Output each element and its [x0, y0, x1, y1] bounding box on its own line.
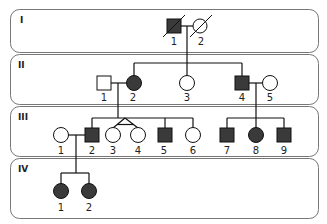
- individual-iii-1: 1: [54, 128, 69, 157]
- individual-iv-2: 2: [82, 184, 97, 214]
- individual-number: 1: [58, 202, 64, 213]
- individual-number: 6: [190, 145, 196, 156]
- individual-iii-9: 9: [277, 128, 291, 156]
- generation-label-ii: II: [18, 60, 25, 70]
- individual-number: 7: [224, 145, 230, 156]
- individual-number: 2: [198, 36, 204, 47]
- individual-number: 2: [89, 145, 95, 156]
- pedigree-chart: I II III IV: [0, 0, 327, 224]
- individual-iii-4: 4: [131, 128, 146, 157]
- individual-number: 5: [161, 145, 167, 156]
- individual-number: 2: [130, 92, 136, 103]
- individual-iii-3: 3: [106, 128, 121, 157]
- individual-ii-2: 2: [127, 76, 142, 104]
- panel-generation-i: [11, 10, 319, 53]
- individual-i-2: 2: [190, 15, 212, 47]
- individual-ii-4: 4: [235, 76, 249, 103]
- individual-iii-5: 5: [158, 128, 172, 156]
- individual-number: 9: [281, 145, 287, 156]
- individual-ii-5: 5: [263, 76, 278, 104]
- individual-number: 8: [253, 145, 259, 156]
- individual-iii-7: 7: [220, 128, 234, 156]
- individual-number: 3: [184, 92, 190, 103]
- individual-iv-1: 1: [54, 184, 69, 214]
- individual-ii-1: 1: [97, 76, 111, 103]
- individual-number: 5: [267, 92, 273, 103]
- generation-label-iii: III: [18, 112, 28, 122]
- individual-number: 2: [86, 202, 92, 213]
- individual-iii-2: 2: [85, 128, 99, 156]
- individual-number: 4: [239, 92, 245, 103]
- individual-ii-3: 3: [180, 76, 195, 104]
- generation-label-iv: IV: [18, 164, 28, 174]
- individual-iii-6: 6: [186, 128, 201, 157]
- individual-number: 1: [171, 36, 177, 47]
- individual-number: 3: [110, 145, 116, 156]
- individual-i-1: 1: [163, 15, 185, 47]
- individual-number: 1: [58, 145, 64, 156]
- individual-iii-8: 8: [249, 128, 264, 157]
- individual-number: 4: [135, 145, 141, 156]
- generation-label-i: I: [20, 15, 23, 25]
- individual-number: 1: [101, 92, 107, 103]
